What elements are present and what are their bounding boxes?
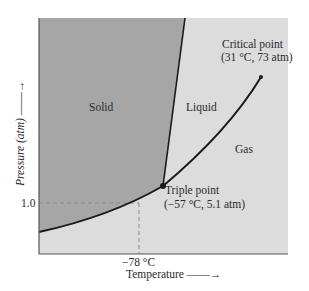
x-axis-label: Temperature	[126, 268, 184, 280]
y-axis-arrow-icon: ——→	[14, 81, 26, 116]
critical-point-marker	[259, 75, 263, 79]
y-axis-title: Pressure (atm) ——→	[14, 81, 26, 186]
solid-region-label: Solid	[89, 101, 113, 114]
liquid-region-label: Liquid	[186, 101, 217, 114]
y-axis-label: Pressure (atm)	[14, 118, 26, 186]
critical-point-label: Critical point	[222, 38, 283, 51]
critical-point-values: (31 °C, 73 atm)	[221, 51, 293, 64]
x-axis-arrow-icon: ——→	[187, 268, 222, 280]
x-axis-title: Temperature ——→	[126, 268, 221, 281]
gas-region-label: Gas	[235, 143, 253, 156]
triple-point-label: Triple point	[165, 184, 219, 197]
y-tick-1atm: 1.0	[21, 197, 35, 210]
triple-point-values: (−57 °C, 5.1 atm)	[164, 198, 245, 211]
